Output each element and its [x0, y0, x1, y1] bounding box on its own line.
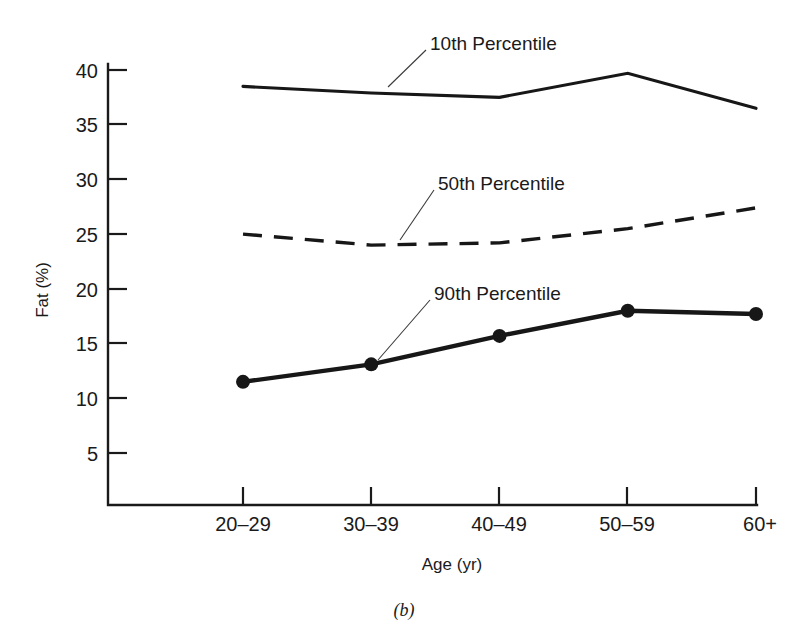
annotation-labels: 10th Percentile 50th Percentile 90th Per… — [430, 33, 565, 304]
chart-canvas: 40 35 30 25 20 15 10 5 Fat (%) 20–29 30–… — [0, 0, 808, 637]
series-label-10th-percentile: 10th Percentile — [430, 33, 557, 54]
x-tick-label-40-49: 40–49 — [471, 513, 527, 535]
y-tick-label-10: 10 — [76, 388, 98, 410]
x-tick-marks — [243, 487, 756, 505]
x-tick-label-30-39: 30–39 — [343, 513, 399, 535]
y-tick-marks — [108, 70, 127, 453]
series-line-10th-percentile — [243, 73, 756, 108]
data-point-marker — [621, 304, 635, 318]
axis-lines — [108, 64, 757, 505]
series-label-50th-percentile: 50th Percentile — [438, 173, 565, 194]
y-tick-label-30: 30 — [76, 169, 98, 191]
series-line-90th-percentile — [243, 311, 756, 382]
figure-panel-b: 40 35 30 25 20 15 10 5 Fat (%) 20–29 30–… — [0, 0, 808, 637]
data-point-marker — [364, 357, 378, 371]
y-tick-label-20: 20 — [76, 279, 98, 301]
series-label-90th-percentile: 90th Percentile — [434, 283, 561, 304]
leader-line-50th-percentile — [400, 190, 434, 240]
y-tick-label-25: 25 — [76, 224, 98, 246]
series-line-50th-percentile — [243, 208, 756, 245]
x-axis-title: Age (yr) — [422, 555, 482, 574]
annotation-leaders — [378, 50, 434, 360]
y-axis-title: Fat (%) — [33, 262, 52, 318]
leader-line-10th-percentile — [388, 50, 426, 87]
y-tick-labels: 40 35 30 25 20 15 10 5 — [76, 60, 98, 465]
axes-group — [108, 64, 757, 505]
x-tick-labels: 20–29 30–39 40–49 50–59 60+ — [215, 513, 777, 535]
data-point-marker — [749, 307, 763, 321]
data-point-marker — [493, 329, 507, 343]
y-tick-label-15: 15 — [76, 333, 98, 355]
y-tick-label-40: 40 — [76, 60, 98, 82]
x-tick-label-60-plus: 60+ — [743, 513, 777, 535]
y-tick-label-5: 5 — [87, 443, 98, 465]
y-tick-label-35: 35 — [76, 114, 98, 136]
x-tick-label-50-59: 50–59 — [599, 513, 655, 535]
data-point-marker — [236, 375, 250, 389]
panel-letter-caption: (b) — [394, 600, 415, 621]
series-markers-90th-percentile — [236, 304, 763, 389]
x-tick-label-20-29: 20–29 — [215, 513, 271, 535]
